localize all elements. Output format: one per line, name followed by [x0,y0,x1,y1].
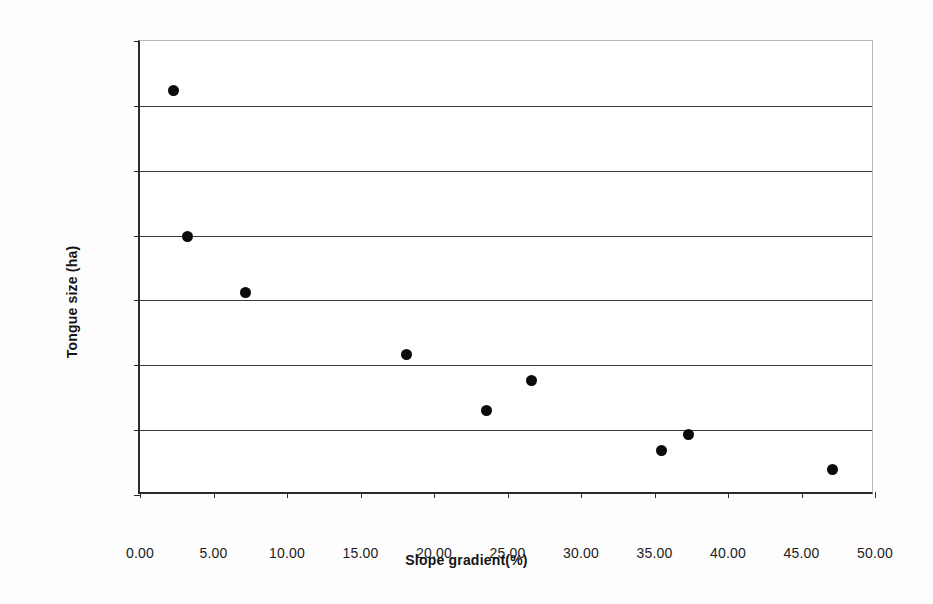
data-point [481,405,492,416]
gridline [140,430,872,431]
y-tick [134,41,140,42]
y-tick [134,171,140,172]
x-tick [875,492,876,498]
x-tick [287,492,288,498]
data-point [168,85,179,96]
gridline [140,236,872,237]
y-tick [134,106,140,107]
data-point [827,464,838,475]
x-tick [508,492,509,498]
x-tick [728,492,729,498]
x-tick [140,492,141,498]
x-tick [655,492,656,498]
x-tick [802,492,803,498]
y-tick [134,430,140,431]
x-tick [361,492,362,498]
y-tick [134,300,140,301]
gridline [140,365,872,366]
data-point [683,429,694,440]
data-point [656,445,667,456]
x-axis-title: Slope gradient(%) [0,552,933,568]
data-point [526,375,537,386]
data-point [401,349,412,360]
data-point [182,231,193,242]
gridline [140,106,872,107]
x-tick [581,492,582,498]
y-tick [134,236,140,237]
y-tick [134,365,140,366]
plot-area: 300310320330340350360370 0.005.0010.0015… [138,40,873,494]
x-tick [434,492,435,498]
y-axis-title: Tongue size (ha) [64,246,80,359]
x-tick [214,492,215,498]
gridline [140,171,872,172]
scatter-plot-figure: Tongue size (ha) 30031032033034035036037… [0,0,933,604]
data-point [240,287,251,298]
gridline [140,300,872,301]
